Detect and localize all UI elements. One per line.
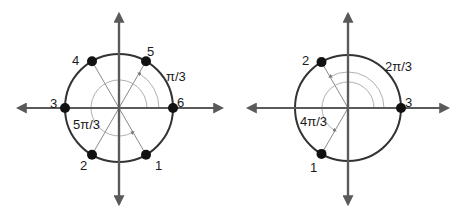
point-label-1: 1 — [155, 158, 162, 173]
point-label-1: 1 — [310, 160, 317, 175]
sum-angle-label: 5π/3 — [73, 117, 100, 132]
sum-angle-label: 4π/3 — [300, 114, 327, 129]
point-2 — [317, 57, 327, 67]
point-label-3: 3 — [50, 96, 57, 111]
step-angle-label: π/3 — [166, 69, 186, 84]
left-diagram: 1 2 3 4 5 6 π/3 5π/3 — [18, 14, 222, 204]
point-label-6: 6 — [177, 95, 184, 110]
point-label-2: 2 — [302, 53, 309, 68]
point-3 — [60, 103, 70, 113]
point-2 — [87, 150, 97, 160]
right-diagram: 1 2 3 2π/3 4π/3 — [248, 14, 448, 204]
point-label-4: 4 — [72, 53, 79, 68]
point-label-3: 3 — [405, 95, 412, 110]
step-angle-label: 2π/3 — [385, 59, 412, 74]
point-4 — [87, 56, 97, 66]
step-angle-arc — [139, 73, 159, 108]
point-label-5: 5 — [147, 44, 154, 59]
point-1 — [317, 149, 327, 159]
figure-canvas: 1 2 3 4 5 6 π/3 5π/3 1 2 3 2π/3 4π/3 — [0, 0, 470, 217]
point-label-2: 2 — [80, 158, 87, 173]
point-1 — [141, 150, 151, 160]
